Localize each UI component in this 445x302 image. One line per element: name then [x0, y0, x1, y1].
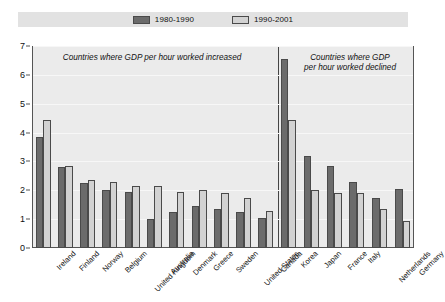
y-tick-mark-3	[26, 161, 30, 162]
x-label-sweden: Sweden	[234, 249, 260, 275]
plot-area	[32, 46, 414, 248]
x-label-japan: Japan	[322, 249, 343, 270]
x-label-australia: Australia	[168, 249, 195, 276]
legend-swatch-dark	[133, 16, 150, 24]
gridline-6	[33, 75, 413, 76]
left-panel-caption: Countries where GDP per hour worked incr…	[42, 53, 262, 63]
legend-entry-1990-2001: 1990-2001	[232, 15, 293, 24]
legend-swatch-light	[232, 16, 249, 24]
y-tick-label-2: 2	[20, 185, 25, 195]
x-label-korea: Korea	[299, 249, 320, 270]
x-label-italy: Italy	[366, 249, 382, 265]
y-tick-mark-4	[26, 132, 30, 133]
y-tick-label-4: 4	[20, 128, 25, 138]
gridline-5	[33, 104, 413, 105]
y-axis: 01234567	[0, 40, 30, 254]
y-tick-label-0: 0	[20, 243, 25, 253]
y-tick-mark-7	[26, 46, 30, 47]
y-tick-label-1: 1	[20, 214, 25, 224]
y-tick-label-3: 3	[20, 156, 25, 166]
legend-label-1980-1990: 1980-1990	[155, 15, 194, 24]
y-tick-mark-0	[26, 248, 30, 249]
y-tick-label-7: 7	[20, 41, 25, 51]
gridline-4	[33, 133, 413, 134]
gridline-3	[33, 161, 413, 162]
x-axis-labels: IrelandFinlandNorwayBelgiumUnited Kingdo…	[32, 249, 414, 302]
legend-entry-1980-1990: 1980-1990	[133, 15, 194, 24]
y-tick-label-5: 5	[20, 99, 25, 109]
y-tick-mark-6	[26, 74, 30, 75]
right-panel-caption: Countries where GDP per hour worked decl…	[290, 53, 410, 73]
legend-label-1990-2001: 1990-2001	[254, 15, 293, 24]
gridline-7	[33, 46, 413, 47]
panel-divider	[278, 47, 279, 247]
y-tick-mark-1	[26, 219, 30, 220]
x-label-belgium: Belgium	[123, 249, 149, 275]
y-tick-label-6: 6	[20, 70, 25, 80]
chart-legend: 1980-1990 1990-2001	[18, 12, 408, 27]
x-label-finland: Finland	[78, 249, 102, 273]
gridline-1	[33, 219, 413, 220]
gridline-2	[33, 190, 413, 191]
y-tick-mark-5	[26, 103, 30, 104]
x-label-norway: Norway	[100, 249, 125, 274]
y-tick-mark-2	[26, 190, 30, 191]
x-label-ireland: Ireland	[55, 249, 78, 272]
x-label-france: France	[346, 249, 369, 272]
